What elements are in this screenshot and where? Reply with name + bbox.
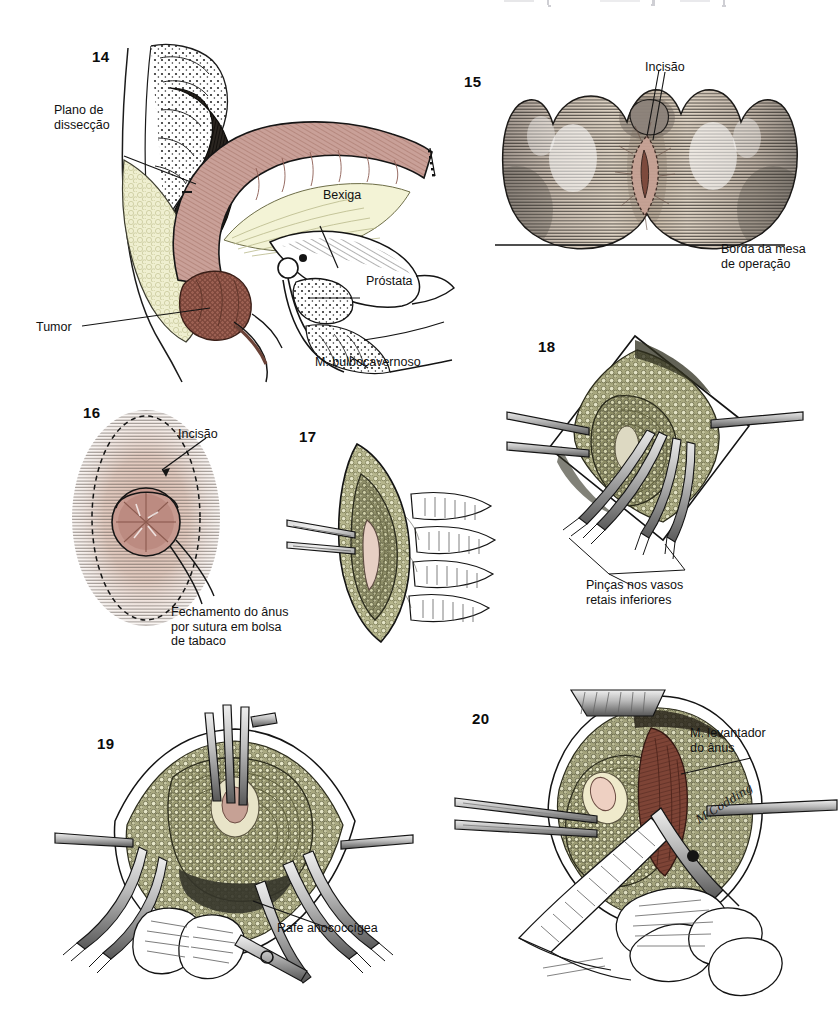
figure-18-artwork bbox=[505, 330, 805, 620]
figure-14-label-prostata: Próstata bbox=[366, 274, 413, 289]
cropped-text-remnant bbox=[0, 0, 839, 10]
figure-19-label-rafe-anococcigea: Rafe anococcígea bbox=[277, 921, 378, 936]
figure-15-label-incisao: Incisão bbox=[645, 60, 685, 75]
figure-14-label-tumor: Tumor bbox=[36, 320, 72, 335]
figure-19: 19 bbox=[55, 705, 415, 1005]
figure-17: 17 bbox=[285, 420, 500, 660]
figure-15: 15 bbox=[455, 40, 839, 300]
illustration-page: 14 bbox=[0, 0, 839, 1029]
figure-16: 16 bbox=[50, 400, 310, 660]
figure-16-label-incisao: Incisão bbox=[178, 427, 218, 442]
figure-20-label-m-levantador-do-anus: M. levantador do ânus bbox=[690, 726, 766, 755]
figure-14-label-bexiga: Bexiga bbox=[323, 188, 361, 203]
figure-14-label-m-bulbocavernoso: M. bulbocavernoso bbox=[315, 355, 421, 370]
figure-14-label-plano-de-disseccao: Plano de dissecção bbox=[54, 103, 110, 132]
figure-14: 14 bbox=[20, 30, 460, 385]
figure-16-label-fechamento-do-anus: Fechamento do ânus por sutura em bolsa d… bbox=[171, 605, 288, 649]
figure-20-artwork: M.Codding bbox=[455, 690, 839, 1000]
figure-17-artwork bbox=[285, 420, 500, 660]
figure-14-artwork bbox=[20, 30, 460, 385]
figure-19-artwork bbox=[55, 705, 415, 1005]
figure-20: 20 bbox=[455, 690, 839, 1000]
figure-15-label-borda-da-mesa: Borda da mesa de operação bbox=[721, 242, 806, 271]
figure-18: 18 bbox=[505, 330, 805, 620]
figure-18-label-pincas-nos-vasos: Pinças nos vasos retais inferiores bbox=[586, 578, 683, 607]
